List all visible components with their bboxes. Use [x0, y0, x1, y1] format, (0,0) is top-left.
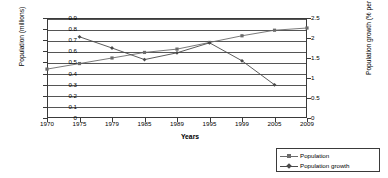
x-axis-tick-label: 2009 [287, 121, 327, 127]
data-point-marker [110, 56, 113, 59]
legend-item-population-growth: Population growth [280, 161, 376, 171]
data-point-marker [240, 34, 243, 37]
legend-label-population: Population [300, 153, 329, 159]
data-point-marker [305, 26, 308, 29]
data-point-marker [78, 62, 81, 65]
series-layer [47, 18, 307, 118]
data-point-marker [110, 46, 114, 50]
legend-label-population-growth: Population growth [300, 163, 350, 169]
data-point-marker [175, 51, 179, 55]
data-point-marker [273, 29, 276, 32]
y-axis-right-tick-label: 0.5 [311, 95, 337, 101]
x-axis-title: Years [130, 133, 250, 140]
y-axis-left-title: Population (millions) [18, 0, 25, 87]
legend-swatch-population-growth [280, 163, 298, 170]
y-axis-right-tick-label: 2.5 [311, 15, 337, 21]
y-axis-right-tick-label: 2 [311, 35, 337, 41]
y-axis-right-tick-label: 1 [311, 75, 337, 81]
data-point-marker [143, 51, 146, 54]
data-point-marker [78, 35, 82, 39]
population-chart: Population (millions) Population growth … [0, 0, 388, 178]
chart-legend: Population Population growth [276, 148, 380, 172]
series-line-population-growth [80, 37, 275, 85]
data-point-marker [143, 58, 147, 62]
data-point-marker [175, 48, 178, 51]
y-axis-right-tick-label: 1.5 [311, 55, 337, 61]
data-point-marker [45, 68, 48, 71]
legend-item-population: Population [280, 151, 376, 161]
y-axis-right-title: Population growth (% per year) [365, 0, 372, 80]
legend-swatch-population [280, 153, 298, 160]
